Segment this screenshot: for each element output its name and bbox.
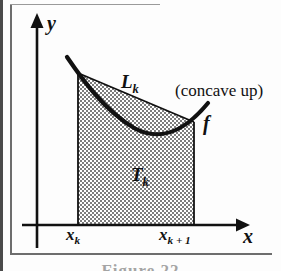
chord-label-subscript: k — [133, 82, 139, 96]
concavity-annotation: (concave up) — [175, 82, 263, 99]
y-axis-label: y — [47, 13, 56, 33]
tick-label-xk: xk — [66, 226, 80, 247]
y-axis-arrowhead-icon — [31, 13, 44, 28]
chord-label-base: L — [121, 71, 133, 92]
curve-label-f: f — [203, 113, 210, 133]
region-label-subscript: k — [143, 175, 149, 189]
tick-label-xk-subscript: k — [75, 234, 81, 246]
tick-label-xk-base: x — [66, 225, 75, 244]
region-label-Tk: Tk — [131, 165, 149, 188]
figure-caption-partial: Figure 22 — [0, 262, 281, 271]
figure-graphic — [0, 0, 281, 271]
figure-container: y x Lk (concave up) f Tk xk xk + 1 Figur… — [0, 0, 281, 271]
tick-label-xk1: xk + 1 — [159, 226, 191, 247]
region-label-base: T — [131, 164, 143, 185]
chord-label-Lk: Lk — [121, 72, 139, 95]
tick-label-xk1-base: x — [159, 225, 168, 244]
x-axis-label: x — [243, 226, 253, 246]
tick-label-xk1-subscript: k + 1 — [168, 234, 191, 246]
